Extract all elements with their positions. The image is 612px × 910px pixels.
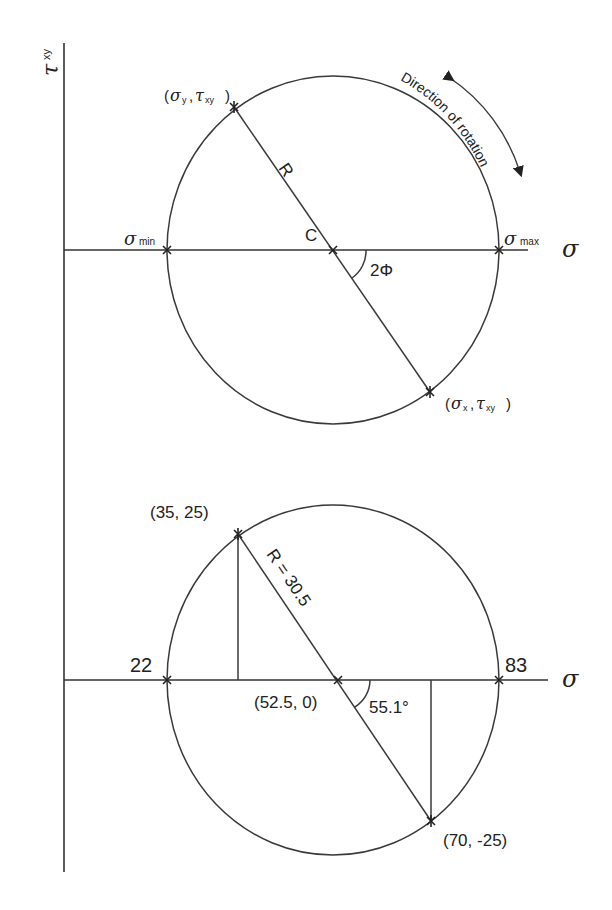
top-center-label: C xyxy=(305,226,317,245)
min-value-label: 22 xyxy=(130,654,152,676)
svg-text:σ: σ xyxy=(504,228,517,249)
top-sigma-axis-label: σ xyxy=(562,235,579,263)
svg-text:max: max xyxy=(520,236,539,247)
bottom-sigma-axis-label: σ xyxy=(562,665,579,693)
center-coordinate-label: (52.5, 0) xyxy=(254,693,317,712)
top-point-label: (35, 25) xyxy=(150,503,209,522)
top-angle-arc xyxy=(352,250,366,278)
bottom-point-label: (70, -25) xyxy=(443,831,507,850)
bottom-angle-arc xyxy=(355,680,370,707)
angle-value-label: 55.1° xyxy=(369,698,409,717)
sigma-min-label: σ min xyxy=(124,228,155,249)
max-value-label: 83 xyxy=(505,654,527,676)
svg-text:τ: τ xyxy=(38,63,63,76)
top-angle-label: 2Φ xyxy=(370,261,393,280)
svg-text:): ) xyxy=(225,87,230,104)
bottom-mohr-circle: 22 83 σ (52.5, 0) 55.1° (35, 25) (70, -2… xyxy=(64,503,579,855)
svg-text:xy: xy xyxy=(205,95,215,105)
svg-text:x: x xyxy=(463,403,468,413)
radius-value-label: R = 30.5 xyxy=(263,546,315,610)
svg-text:,: , xyxy=(470,395,474,412)
svg-text:σ: σ xyxy=(170,86,182,105)
svg-text:): ) xyxy=(506,395,511,412)
svg-text:σ: σ xyxy=(451,394,463,413)
rotation-label: Direction of rotation xyxy=(398,69,492,170)
mohr-circle-diagram: τ xy C R 2Φ σ min xyxy=(0,0,612,910)
svg-text:τ: τ xyxy=(476,394,486,413)
svg-text:,: , xyxy=(189,87,193,104)
top-mohr-circle: C R 2Φ σ min σ max σ ( σ y , τ xy ) ( σ … xyxy=(64,69,579,424)
point-y-label: ( σ y , τ xy ) xyxy=(164,86,230,105)
svg-text:min: min xyxy=(139,236,155,247)
svg-text:(: ( xyxy=(445,395,450,412)
svg-text:τ: τ xyxy=(195,86,205,105)
svg-text:(: ( xyxy=(164,87,169,104)
sigma-max-label: σ max xyxy=(504,228,539,249)
svg-text:σ: σ xyxy=(124,228,137,249)
svg-text:xy: xy xyxy=(40,49,52,61)
tau-axis-label: τ xy xyxy=(38,49,63,77)
svg-text:xy: xy xyxy=(486,403,496,413)
top-radius-label: R xyxy=(275,160,298,181)
svg-text:y: y xyxy=(182,95,187,105)
point-x-label: ( σ x , τ xy ) xyxy=(445,394,511,413)
